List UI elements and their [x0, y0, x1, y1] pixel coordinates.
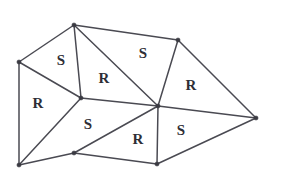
edge-hub-to-right	[158, 106, 256, 118]
edge-top-right-to-hub	[158, 40, 178, 106]
edge-right-to-bottom	[157, 118, 256, 164]
vertex-bottom-middle	[72, 151, 76, 155]
vertex-mid-left	[79, 96, 83, 100]
vertex-right	[254, 116, 258, 120]
face-label-s-upper-right: S	[139, 46, 147, 61]
edge-left-to-mid-left	[19, 62, 81, 98]
face-label-r-lower-mid: R	[133, 132, 144, 147]
edge-bottom-middle-to-bottom-left	[19, 153, 74, 165]
face-label-r-upper-mid: R	[99, 71, 110, 86]
face-label-r-right: R	[186, 78, 197, 93]
mesh-svg-canvas	[0, 0, 284, 183]
triangular-mesh-diagram: SRSRRSRS	[0, 0, 284, 183]
vertex-top-right	[176, 38, 180, 42]
vertex-top	[72, 23, 76, 27]
face-label-s-lower-right: S	[177, 123, 185, 138]
edge-mid-left-to-hub	[81, 98, 158, 106]
vertex-bottom-left	[17, 163, 21, 167]
face-label-s-upper-left: S	[57, 53, 65, 68]
edge-top-to-top-right	[74, 25, 178, 40]
edge-bottom-to-bottom-middle	[74, 153, 157, 164]
edge-top-to-hub	[74, 25, 158, 106]
vertex-left	[17, 60, 21, 64]
edge-mid-left-to-bottom-left	[19, 98, 81, 165]
vertex-center-hub	[156, 104, 160, 108]
vertex-bottom	[155, 162, 159, 166]
edge-left-to-top	[19, 25, 74, 62]
face-label-r-left: R	[33, 96, 44, 111]
edge-hub-to-bottom	[157, 106, 158, 164]
face-label-s-lower-left: S	[84, 117, 92, 132]
edge-top-to-mid-left	[74, 25, 81, 98]
